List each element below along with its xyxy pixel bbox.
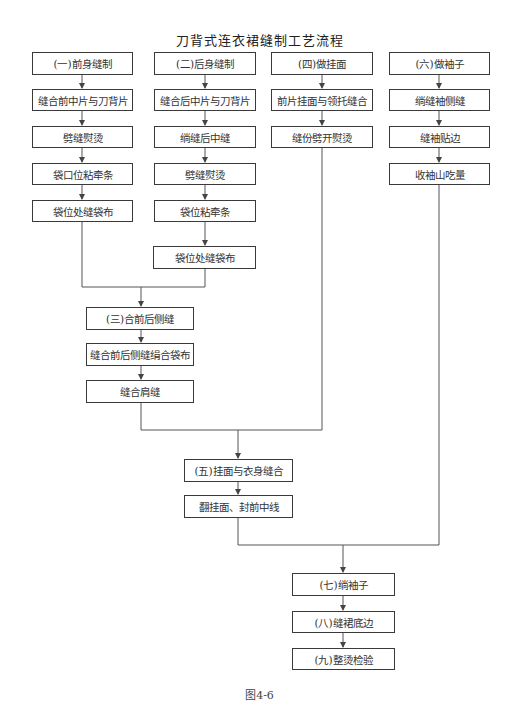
front-step-box: 缝合前中片与刀背片: [32, 89, 133, 111]
sleeve-step-box: 收袖山吃量: [389, 163, 490, 185]
sleeve-step-box: 缝袖贴边: [389, 126, 490, 148]
front-step-box: 劈缝熨烫: [32, 126, 133, 148]
final-step-box: (八)缝裙底边: [292, 611, 395, 633]
final-step-box: (七)绱袖子: [292, 573, 395, 596]
back-step-box: 袋位处缝袋布: [153, 246, 256, 269]
figure-caption: 图4-6: [0, 686, 519, 702]
front-step-box: 袋位处缝袋布: [32, 200, 133, 222]
facing-header-box: (四)做挂面: [271, 52, 373, 75]
front-step-box: 袋口位粘牵条: [32, 163, 133, 185]
side-seam-step-box: 缝合前后侧缝绢合袋布: [86, 343, 194, 366]
final-step-box: (九)整烫检验: [292, 648, 395, 670]
sleeve-step-box: 绱缝袖侧缝: [389, 89, 490, 111]
back-step-box: 绱缝后中缝: [154, 126, 256, 148]
back-body-header-box: (二)后身缝制: [154, 52, 256, 75]
side-seam-step-box: 缝合肩缝: [86, 380, 194, 403]
back-step-box: 缝合后中片与刀背片: [154, 89, 256, 111]
facing-step-box: 缝份劈开熨烫: [271, 126, 373, 148]
facing-body-step-box: 翻挂面、封前中线: [184, 495, 293, 518]
facing-step-box: 前片挂面与领托缝合: [271, 89, 373, 111]
back-step-box: 袋位粘牵条: [154, 200, 256, 222]
front-body-header-box: (一)前身缝制: [32, 52, 133, 75]
facing-body-header-box: (五)挂面与衣身缝合: [184, 459, 293, 482]
back-step-box: 劈缝熨烫: [154, 163, 256, 185]
sleeve-header-box: (六)做袖子: [389, 52, 490, 75]
side-seam-header-box: (三)合前后侧缝: [86, 307, 194, 330]
